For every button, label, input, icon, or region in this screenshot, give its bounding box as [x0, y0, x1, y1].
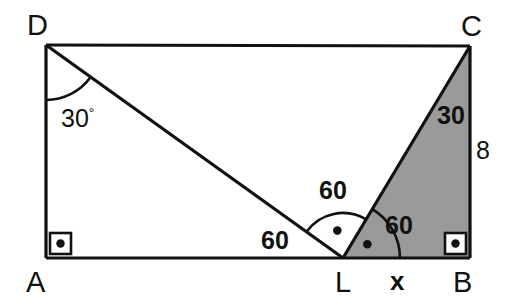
- vertex-label-D: D: [27, 11, 48, 40]
- vertex-label-B: B: [453, 268, 472, 297]
- side-label-cb: 8: [476, 138, 490, 163]
- arc-dot-DLC: [333, 226, 342, 235]
- vertex-label-L: L: [335, 268, 351, 297]
- angle-label-dla: 60: [261, 228, 289, 253]
- angle-label-adl: 30°: [61, 106, 94, 131]
- degree-symbol: °: [89, 105, 95, 121]
- side-label-lb: x: [390, 268, 404, 294]
- angle-label-dlc: 60: [319, 178, 347, 203]
- right-angle-dot-a: [56, 239, 64, 247]
- vertex-label-C: C: [461, 12, 482, 41]
- arc-dot-CLB: [363, 240, 372, 249]
- angle-label-adl-value: 30: [61, 104, 89, 132]
- geometry-diagram: D C A L B 30° 60 60 60 30 8 x: [0, 0, 511, 306]
- segment-DC: [46, 45, 470, 46]
- angle-label-clb: 60: [385, 213, 413, 238]
- arc-angle-at-D: [46, 77, 91, 100]
- vertex-label-A: A: [26, 268, 45, 297]
- right-angle-dot-b: [451, 239, 459, 247]
- geometry-canvas: [0, 0, 511, 306]
- angle-label-lcb: 30: [437, 103, 465, 128]
